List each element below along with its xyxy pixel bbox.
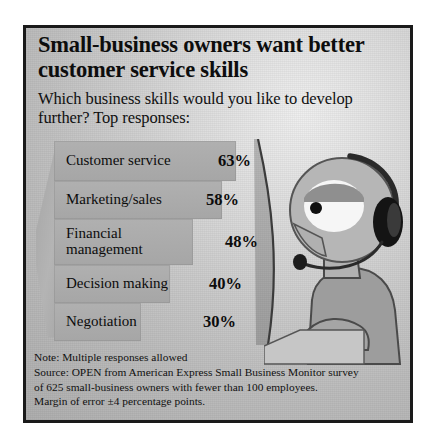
headset-mic-tip: [293, 254, 307, 270]
chart-label-3: Decision making: [54, 276, 168, 291]
footnote-line-1: Note: Multiple responses allowed: [34, 350, 404, 365]
footnote-line-3: of 625 small-business owners with fewer …: [34, 380, 404, 395]
chart-label-0: Customer service: [54, 153, 171, 168]
footnote-line-4: Margin of error ±4 percentage points.: [34, 394, 404, 409]
footnote-line-2: Source: OPEN from American Express Small…: [34, 365, 404, 380]
chart-row-2: Financialmanagement 48%: [54, 219, 286, 265]
chart-row-1: Marketing/sales 58%: [54, 181, 286, 219]
chart-row-3: Decision making 40%: [54, 265, 286, 303]
bar-chart: Customer service 63% Marketing/sales 58%…: [36, 141, 286, 341]
page-title: Small-business owners want better custom…: [38, 33, 388, 83]
infographic-frame: Small-business owners want better custom…: [23, 25, 413, 423]
chart-value-2: 48%: [225, 232, 258, 252]
chart-label-1: Marketing/sales: [54, 192, 162, 207]
chart-value-4: 30%: [203, 312, 236, 332]
footnote-block: Note: Multiple responses allowed Source:…: [34, 350, 404, 409]
chart-label-2: Financialmanagement: [54, 226, 143, 258]
page-subtitle: Which business skills would you like to …: [38, 90, 386, 127]
infographic-root: Small-business owners want better custom…: [0, 0, 431, 446]
chart-label-4: Negotiation: [54, 314, 137, 329]
headset-earcup-highlight: [387, 203, 401, 237]
bar-stack: Customer service 63% Marketing/sales 58%…: [54, 141, 286, 341]
chart-value-3: 40%: [209, 274, 242, 294]
chart-row-4: Negotiation 30%: [54, 303, 286, 341]
operator-pupil: [310, 202, 322, 214]
chart-row-0: Customer service 63%: [54, 141, 286, 181]
chart-value-1: 58%: [206, 190, 239, 210]
operator-illustration: [264, 150, 410, 370]
chart-value-0: 63%: [218, 151, 251, 171]
